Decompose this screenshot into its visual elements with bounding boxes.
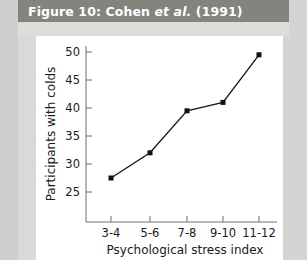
- figure-page: Figure 10: Cohen et al. (1991) 50 45 40: [0, 0, 307, 260]
- y-tick-label: 25: [65, 185, 80, 199]
- y-tick-label: 50: [65, 45, 80, 59]
- caption-italic: et al.: [155, 4, 192, 19]
- page-right-margin: [283, 0, 307, 260]
- line-chart: 50 45 40 35 30 25 3-4 5-6 7-8 9-10: [36, 36, 283, 260]
- data-point-marker: [257, 52, 262, 57]
- page-left-margin: [0, 0, 18, 260]
- data-point-marker: [221, 100, 226, 105]
- y-tick-label: 45: [65, 73, 80, 87]
- figure-caption-bar: Figure 10: Cohen et al. (1991): [18, 0, 289, 22]
- x-tick-label: 5-6: [141, 226, 160, 240]
- figure-caption-text: Figure 10: Cohen et al. (1991): [28, 4, 243, 19]
- x-axis-ticks: [111, 216, 259, 222]
- x-tick-label: 3-4: [102, 226, 121, 240]
- y-tick-label: 35: [65, 129, 80, 143]
- series-line-participants-with-colds: [111, 55, 259, 178]
- caption-underband: [18, 22, 289, 36]
- y-tick-label: 40: [65, 101, 80, 115]
- x-tick-label: 7-8: [178, 226, 197, 240]
- data-point-marker: [148, 150, 153, 155]
- x-tick-label: 11-12: [242, 226, 275, 240]
- data-point-marker: [185, 108, 190, 113]
- y-axis-tick-labels: 50 45 40 35 30 25: [65, 45, 80, 199]
- data-point-marker: [109, 176, 114, 181]
- x-axis-tick-labels: 3-4 5-6 7-8 9-10 11-12: [102, 226, 276, 240]
- x-axis-title: Psychological stress index: [107, 243, 264, 257]
- caption-prefix: Figure 10: Cohen: [28, 4, 155, 19]
- y-axis-ticks: [86, 52, 92, 192]
- x-tick-label: 9-10: [210, 226, 236, 240]
- caption-suffix: (1991): [191, 4, 242, 19]
- y-tick-label: 30: [65, 157, 80, 171]
- y-axis-title: Participants with colds: [44, 67, 58, 202]
- chart-plot-card: 50 45 40 35 30 25 3-4 5-6 7-8 9-10: [36, 36, 283, 260]
- series-markers: [109, 52, 262, 180]
